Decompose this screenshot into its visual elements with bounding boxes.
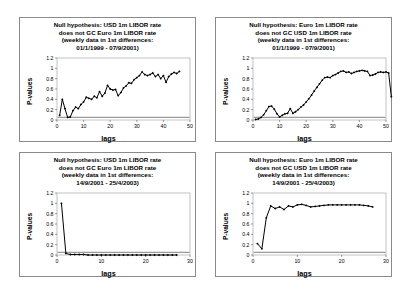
x-axis-label: lags (216, 269, 393, 278)
svg-text:40: 40 (357, 123, 363, 129)
chart-panel-bottom-right: Null hypothesis: Euro 1m LIBOR rate does… (215, 152, 392, 277)
chart-title: Null hypothesis: Euro 1m LIBOR rate does… (216, 21, 391, 51)
svg-text:0.4: 0.4 (242, 231, 249, 237)
svg-text:50: 50 (383, 123, 389, 129)
chart-title-line-4: 14/9/2001 - 25/4/2003) (216, 179, 391, 187)
svg-text:0: 0 (51, 117, 54, 123)
chart-title-line-1: Null hypothesis: USD 1m LIBOR rate (20, 21, 195, 29)
svg-text:0.4: 0.4 (46, 231, 53, 237)
chart-title-line-2: does not GC USD 1m LIBOR rate (216, 164, 391, 172)
svg-text:20: 20 (303, 123, 309, 129)
chart-title-line-2: does not GC USD 1m LIBOR rate (216, 29, 391, 37)
svg-text:30: 30 (134, 123, 140, 129)
svg-text:0.6: 0.6 (46, 86, 53, 92)
chart-title: Null hypothesis: USD 1m LIBOR rate does … (20, 156, 195, 186)
svg-text:0.6: 0.6 (242, 221, 249, 227)
svg-text:1.2: 1.2 (46, 190, 53, 196)
svg-text:1.2: 1.2 (242, 55, 249, 61)
svg-text:10: 10 (294, 258, 300, 264)
chart-title-line-1: Null hypothesis: Euro 1m LIBOR rate (216, 21, 391, 29)
svg-text:30: 30 (330, 123, 336, 129)
svg-text:1: 1 (247, 200, 250, 206)
svg-text:0.6: 0.6 (46, 221, 53, 227)
plot-area: P-values 00.20.40.60.811.201020304050 la… (216, 54, 393, 143)
svg-text:0: 0 (51, 252, 54, 258)
chart-title-line-3: (weekly data in 1st differences: (20, 36, 195, 44)
svg-text:0: 0 (56, 123, 59, 129)
svg-text:1: 1 (247, 65, 250, 71)
chart-title-line-1: Null hypothesis: USD 1m LIBOR rate (20, 156, 195, 164)
svg-text:0: 0 (56, 258, 59, 264)
chart-panel-top-left: Null hypothesis: USD 1m LIBOR rate does … (19, 17, 196, 142)
svg-text:0.2: 0.2 (242, 242, 249, 248)
plot-svg: 00.20.40.60.811.201020304050 (20, 54, 197, 143)
svg-text:20: 20 (143, 258, 149, 264)
svg-text:1: 1 (51, 65, 54, 71)
chart-title-line-3: (weekly data in 1st differences: (20, 171, 195, 179)
svg-text:0.4: 0.4 (46, 96, 53, 102)
x-axis-label: lags (20, 134, 197, 143)
svg-text:0: 0 (252, 123, 255, 129)
plot-area: P-values 00.20.40.60.811.201020304050 la… (20, 54, 197, 143)
svg-text:1: 1 (51, 200, 54, 206)
svg-text:0.2: 0.2 (242, 107, 249, 113)
svg-text:0: 0 (247, 117, 250, 123)
svg-text:10: 10 (277, 123, 283, 129)
svg-text:20: 20 (339, 258, 345, 264)
svg-text:0.8: 0.8 (242, 76, 249, 82)
svg-text:0.8: 0.8 (46, 76, 53, 82)
svg-text:30: 30 (187, 258, 193, 264)
chart-title: Null hypothesis: Euro 1m LIBOR rate does… (216, 156, 391, 186)
chart-title-line-4: 01/1/1999 - 07/9/2001) (20, 44, 195, 52)
chart-title-line-4: 14/9/2001 - 25/4/2003) (20, 179, 195, 187)
chart-panel-top-right: Null hypothesis: Euro 1m LIBOR rate does… (215, 17, 392, 142)
svg-text:1.2: 1.2 (242, 190, 249, 196)
svg-text:0.2: 0.2 (46, 242, 53, 248)
plot-svg: 00.20.40.60.811.20102030 (216, 189, 393, 278)
svg-text:0.6: 0.6 (242, 86, 249, 92)
svg-text:10: 10 (81, 123, 87, 129)
chart-title: Null hypothesis: USD 1m LIBOR rate does … (20, 21, 195, 51)
chart-title-line-2: does not GC Euro 1m LIBOR rate (20, 164, 195, 172)
plot-svg: 00.20.40.60.811.201020304050 (216, 54, 393, 143)
svg-text:0: 0 (247, 252, 250, 258)
figure-canvas: Null hypothesis: USD 1m LIBOR rate does … (0, 0, 409, 292)
chart-title-line-2: does not GC Euro 1m LIBOR rate (20, 29, 195, 37)
svg-text:0.8: 0.8 (46, 211, 53, 217)
chart-title-line-4: 01/1/1999 - 07/9/2001) (216, 44, 391, 52)
svg-text:1.2: 1.2 (46, 55, 53, 61)
svg-text:50: 50 (187, 123, 193, 129)
plot-area: P-values 00.20.40.60.811.20102030 lags (216, 189, 393, 278)
svg-text:30: 30 (383, 258, 389, 264)
chart-panel-bottom-left: Null hypothesis: USD 1m LIBOR rate does … (19, 152, 196, 277)
x-axis-label: lags (20, 269, 197, 278)
chart-title-line-1: Null hypothesis: Euro 1m LIBOR rate (216, 156, 391, 164)
svg-text:0.4: 0.4 (242, 96, 249, 102)
svg-text:0.2: 0.2 (46, 107, 53, 113)
svg-text:10: 10 (98, 258, 104, 264)
svg-text:0: 0 (252, 258, 255, 264)
svg-text:20: 20 (107, 123, 113, 129)
plot-svg: 00.20.40.60.811.20102030 (20, 189, 197, 278)
svg-text:0.8: 0.8 (242, 211, 249, 217)
plot-area: P-values 00.20.40.60.811.20102030 lags (20, 189, 197, 278)
chart-title-line-3: (weekly data in 1st differences: (216, 36, 391, 44)
chart-title-line-3: (weekly data in 1st differences: (216, 171, 391, 179)
x-axis-label: lags (216, 134, 393, 143)
svg-text:40: 40 (161, 123, 167, 129)
